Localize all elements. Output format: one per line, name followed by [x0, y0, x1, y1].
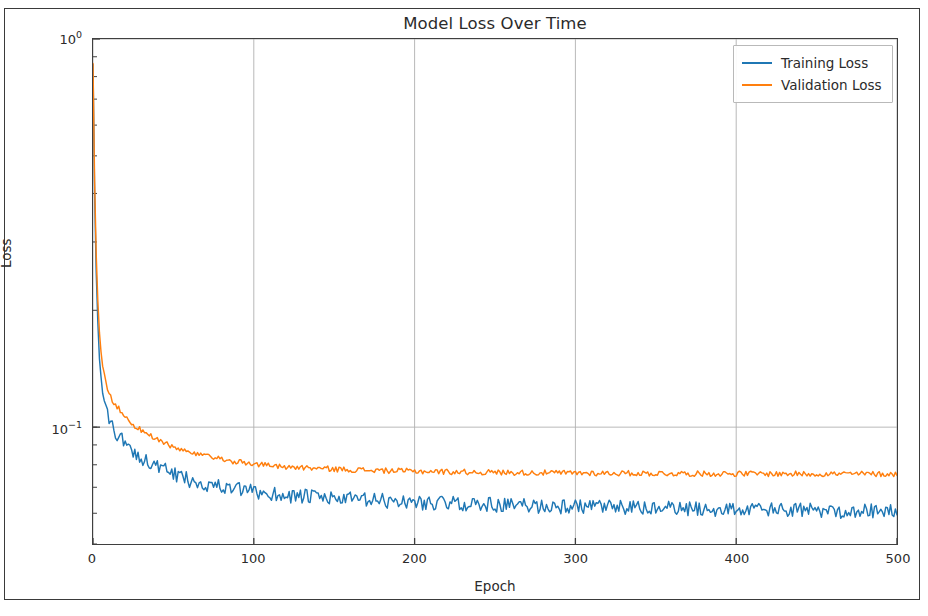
- y-tick-label: 10−1: [51, 419, 82, 436]
- x-tick-label: 100: [241, 551, 266, 566]
- legend-item[interactable]: Validation Loss: [742, 74, 882, 96]
- x-tick-label: 300: [563, 551, 588, 566]
- legend-line-swatch-icon: [742, 62, 772, 64]
- legend-item[interactable]: Training Loss: [742, 52, 882, 74]
- data-series-layer: [93, 39, 897, 544]
- series-line-validation-loss: [93, 63, 897, 476]
- x-axis-label: Epoch: [92, 578, 898, 594]
- chart-title: Model Loss Over Time: [92, 14, 898, 33]
- x-tick-label: 400: [724, 551, 749, 566]
- y-tick-label: 100: [59, 29, 82, 46]
- x-tick-label: 500: [886, 551, 911, 566]
- chart-legend[interactable]: Training LossValidation Loss: [733, 45, 893, 103]
- figure-canvas: Model Loss Over Time Loss Epoch 01002003…: [0, 0, 928, 616]
- y-axis-label: Loss: [0, 238, 14, 268]
- legend-label: Validation Loss: [781, 77, 882, 93]
- plot-area: [92, 38, 898, 545]
- x-tick-label: 0: [88, 551, 96, 566]
- x-tick-label: 200: [402, 551, 427, 566]
- series-line-training-loss: [93, 64, 897, 518]
- legend-line-swatch-icon: [742, 84, 772, 86]
- legend-label: Training Loss: [781, 55, 868, 71]
